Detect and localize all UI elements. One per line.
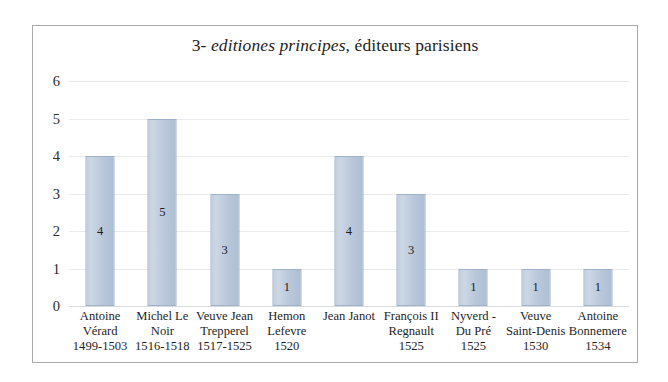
x-axis-label-line: Jean Janot <box>314 309 384 324</box>
y-tick-label-1: 1 <box>53 261 60 276</box>
x-axis-label-line: Trepperel <box>189 324 259 339</box>
x-axis-label-line: 1520 <box>252 339 322 354</box>
bar-value-label: 1 <box>256 281 318 294</box>
gridline-0 <box>69 306 629 307</box>
x-axis-label-line: Lefevre <box>252 324 322 339</box>
x-axis-category-label: AntoineVérard1499-1503 <box>65 309 135 355</box>
x-axis-label-line: 1525 <box>438 339 508 354</box>
bar-value-label: 5 <box>131 206 193 219</box>
bar-value-label: 1 <box>442 281 504 294</box>
y-tick-label-4: 4 <box>53 149 60 164</box>
x-axis-label-line: Noir <box>127 324 197 339</box>
x-axis-label-line: Hemon <box>252 309 322 324</box>
x-axis-label-line: 1516-1518 <box>127 339 197 354</box>
x-axis-label-line: Vérard <box>65 324 135 339</box>
bar-value-label: 4 <box>69 225 131 238</box>
x-axis-label-line: Veuve <box>501 309 571 324</box>
bar-slot: 1 <box>442 81 504 306</box>
bar-slot: 3 <box>193 81 255 306</box>
plot-area: 0123456 453143111 <box>69 81 629 306</box>
x-axis-category-label: HemonLefevre1520 <box>252 309 322 355</box>
bar-value-label: 3 <box>380 244 442 257</box>
x-axis-category-label: VeuveSaint-Denis1530 <box>501 309 571 355</box>
x-axis-label-line: Michel Le <box>127 309 197 324</box>
x-axis-category-label: AntoineBonnemere1534 <box>563 309 633 355</box>
bar-value-label: 1 <box>567 281 629 294</box>
x-axis-label-line: 1517-1525 <box>189 339 259 354</box>
x-axis-label-line: 1534 <box>563 339 633 354</box>
x-axis-label-line: Antoine <box>65 309 135 324</box>
x-axis-label-line: Bonnemere <box>563 324 633 339</box>
x-axis-label-line: Du Pré <box>438 324 508 339</box>
y-tick-label-3: 3 <box>53 186 60 201</box>
x-axis-label-line: 1499-1503 <box>65 339 135 354</box>
x-axis-label-line: 1530 <box>501 339 571 354</box>
y-tick-label-2: 2 <box>53 224 60 239</box>
x-axis-label-line: Antoine <box>563 309 633 324</box>
bar-slot: 1 <box>567 81 629 306</box>
chart-title-italic: editiones principes <box>211 35 346 55</box>
chart-title-suffix: , éditeurs parisiens <box>346 35 479 55</box>
bars-layer: 453143111 <box>69 81 629 306</box>
x-axis-label-line: Saint-Denis <box>501 324 571 339</box>
x-axis-label-line: Regnault <box>376 324 446 339</box>
bar-slot: 1 <box>505 81 567 306</box>
x-axis-category-label: Jean Janot <box>314 309 384 324</box>
x-axis-category-label: Nyverd -Du Pré1525 <box>438 309 508 355</box>
bar-slot: 1 <box>256 81 318 306</box>
bar-value-label: 3 <box>193 244 255 257</box>
chart-title: 3- editiones principes, éditeurs parisie… <box>33 35 637 56</box>
bar-value-label: 1 <box>505 281 567 294</box>
bar-slot: 3 <box>380 81 442 306</box>
x-axis-label-line: 1525 <box>376 339 446 354</box>
x-axis-category-label: François IIRegnault1525 <box>376 309 446 355</box>
y-tick-label-0: 0 <box>53 299 60 314</box>
x-axis-label-line: Nyverd - <box>438 309 508 324</box>
x-axis-labels: AntoineVérard1499-1503Michel LeNoir1516-… <box>69 309 629 361</box>
x-axis-category-label: Veuve JeanTrepperel1517-1525 <box>189 309 259 355</box>
y-tick-label-5: 5 <box>53 111 60 126</box>
bar-slot: 5 <box>131 81 193 306</box>
bar-slot: 4 <box>318 81 380 306</box>
y-tick-label-6: 6 <box>53 74 60 89</box>
bar-slot: 4 <box>69 81 131 306</box>
bar-value-label: 4 <box>318 225 380 238</box>
x-axis-label-line: Veuve Jean <box>189 309 259 324</box>
x-axis-category-label: Michel LeNoir1516-1518 <box>127 309 197 355</box>
x-axis-label-line: François II <box>376 309 446 324</box>
chart-title-prefix: 3- <box>192 35 211 55</box>
chart-frame: 3- editiones principes, éditeurs parisie… <box>32 25 638 363</box>
